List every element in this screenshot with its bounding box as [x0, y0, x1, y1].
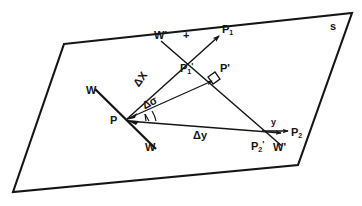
point-p1-subscript: 1 [229, 29, 233, 36]
point-p-label: P [110, 115, 117, 126]
point-p-prime-label: P' [220, 63, 230, 74]
point-p2-prime-label: P2' [251, 140, 264, 153]
point-p2-subscript: 2 [298, 132, 302, 139]
w-prime-label-bottom: W' [273, 142, 286, 153]
w-label-lower-right: W [145, 142, 155, 153]
surface-label-s: s [330, 21, 336, 32]
diagram-canvas [0, 0, 362, 206]
delta-y-label: Δy [193, 130, 207, 141]
w-prime-label-top: W' [154, 30, 167, 41]
point-p1-label: P1 [222, 24, 233, 36]
y-axis-label: y [271, 118, 276, 127]
plus-marker-label: + [183, 30, 189, 41]
geometry-diagram: s W' + P1 P1' P' ΔX Δσ W P W Δy y P2 P2'… [0, 0, 362, 206]
angle-arc-at-p [152, 111, 156, 121]
point-p2-prime-mark: ' [262, 139, 264, 149]
point-p2-label: P2 [291, 127, 302, 139]
w-label-upper-left: W [86, 85, 96, 96]
point-p1-prime-mark: ' [191, 61, 193, 71]
point-p1-prime-label: P1' [180, 62, 193, 75]
